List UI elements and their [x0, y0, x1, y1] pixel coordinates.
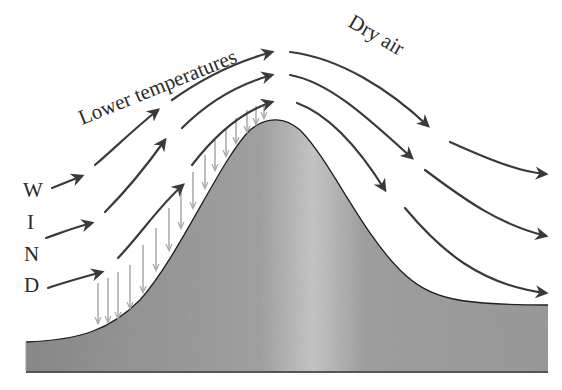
label-lower-temperatures: Lower temperatures	[75, 44, 240, 129]
wind-letter-d: D	[24, 273, 39, 297]
wind-letter-n: N	[24, 242, 39, 266]
label-dry-air: Dry air	[345, 9, 409, 60]
wind-vertical-label: W I N D	[23, 178, 43, 297]
wind-letter-w: W	[23, 178, 43, 202]
wind-letter-i: I	[27, 210, 34, 234]
orographic-diagram: Lower temperatures Dry air W I N D	[0, 0, 562, 390]
